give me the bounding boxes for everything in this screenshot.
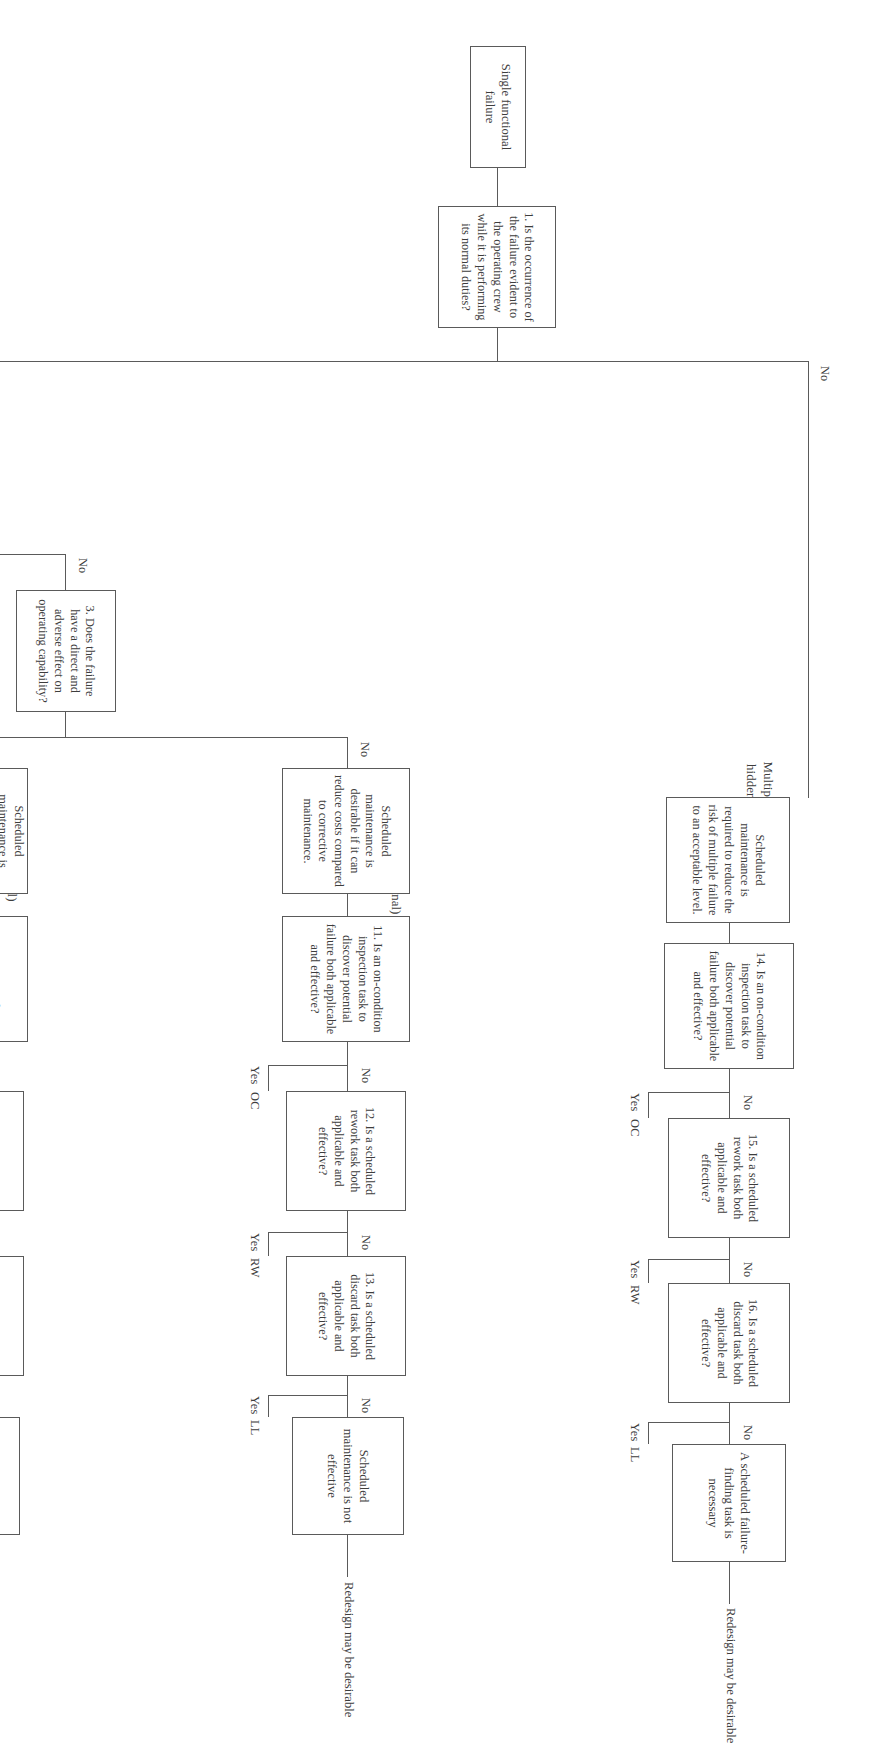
edge-q15-split [648,1259,730,1260]
edge-q11-no [347,1065,348,1091]
outcome-redesign-desirable-non-operational: Redesign may be desirable [341,1582,357,1747]
node-q11: 11. Is an on-condition inspection task t… [282,916,410,1042]
node-statement-non-operational: Scheduled maintenance is desirable if it… [282,768,410,894]
edge-q16-yes [648,1422,649,1444]
node-q12: 12. Is a scheduled rework task both appl… [286,1091,406,1211]
edge-root-q1 [497,168,498,206]
node-q3-label: 3. Does the failure have a direct and ad… [35,596,98,706]
edge-q14-split [648,1092,730,1093]
edge-q12-out [347,1211,348,1233]
edge-label-q12-no: No [358,1235,373,1250]
edge-q16-out [729,1403,730,1423]
node-q15: 15. Is a scheduled rework task both appl… [668,1118,790,1238]
edge-q13-no [347,1395,348,1417]
edge-label-q15-yes: Yes [627,1260,642,1278]
edge-label-q3-no: No [357,742,372,757]
edge-q1-no [808,361,809,798]
edge-q3-no [347,737,348,769]
edge-label-q13-no: No [358,1398,373,1413]
node-statement-operational: Scheduled maintenance is desirable if it… [0,768,28,894]
edge-label-q11-no: No [358,1068,373,1083]
edge-label-q11-yes: Yes [247,1066,262,1084]
node-q10: 10. Is a scheduled discard task both app… [0,1256,24,1376]
node-outcome-failure-finding-label: A scheduled failure-finding task is nece… [705,1450,753,1556]
node-root-label: Single functional failure [482,52,514,162]
edge-q3-out [65,712,66,738]
edge-q1-out [497,328,498,362]
task-code-ll-nonoperational: LL [247,1420,262,1436]
node-q8-label: 8. Is an on-condition inspection task to… [0,922,2,1036]
edge-q14-no [729,1092,730,1118]
edge-nonop-stmt-q11 [347,894,348,916]
edge-hidden-redesign [729,1562,730,1604]
task-code-oc-hidden: OC [627,1119,642,1137]
node-outcome-sched-not-effective-non-operational-label: Scheduled maintenance is not effective [324,1423,372,1529]
node-statement-non-operational-label: Scheduled maintenance is desirable if it… [299,774,393,888]
edge-label-q16-yes: Yes [627,1423,642,1441]
node-outcome-sched-not-effective-operational: Scheduled maintenance is not effective [0,1417,20,1535]
node-root: Single functional failure [470,46,526,168]
edge-q15-no [729,1259,730,1283]
node-q16-label: 16. Is a scheduled discard task both app… [698,1289,761,1397]
edge-q2-split [0,554,66,555]
node-q13: 13. Is a scheduled discard task both app… [286,1256,406,1376]
edge-q12-split [268,1232,348,1233]
edge-q12-no [347,1232,348,1256]
edge-q16-no [729,1422,730,1444]
task-code-rw-hidden: RW [627,1285,642,1305]
node-q14-label: 14. Is an on-condition inspection task t… [690,949,769,1063]
node-statement-hidden: Scheduled maintenance is required to red… [666,797,790,923]
edge-q12-yes [268,1232,269,1256]
edge-q11-out [347,1042,348,1066]
edge-q11-split [268,1065,348,1066]
node-statement-operational-label: Scheduled maintenance is desirable if it… [0,774,26,888]
node-q15-label: 15. Is a scheduled rework task both appl… [698,1124,761,1232]
node-q14: 14. Is an on-condition inspection task t… [664,943,794,1069]
edge-q15-yes [648,1259,649,1283]
edge-q15-out [729,1238,730,1260]
task-code-rw-nonoperational: RW [247,1258,262,1278]
node-outcome-sched-not-effective-non-operational: Scheduled maintenance is not effective [292,1417,404,1535]
edge-q13-split [268,1395,348,1396]
node-q1-label: 1. Is the occurrence of the failure evid… [458,212,537,322]
edge-q14-yes [648,1092,649,1118]
edge-label-q14-no: No [740,1095,755,1110]
edge-label-q12-yes: Yes [247,1233,262,1251]
edge-q1-split [0,361,809,362]
edge-label-q2-no: No [75,558,90,573]
edge-hidden-stmt-q14 [729,923,730,943]
edge-q11-yes [268,1065,269,1091]
edge-q14-out [729,1069,730,1093]
edge-label-q16-no: No [740,1425,755,1440]
edge-q13-out [347,1376,348,1396]
task-code-oc-nonoperational: OC [247,1092,262,1110]
node-q16: 16. Is a scheduled discard task both app… [668,1283,790,1403]
node-q11-label: 11. Is an on-condition inspection task t… [307,922,386,1036]
edge-q3-split [0,737,348,738]
node-q12-label: 12. Is a scheduled rework task both appl… [315,1097,378,1205]
node-q9: 9. Is a scheduled rework task both appli… [0,1091,24,1211]
node-statement-hidden-label: Scheduled maintenance is required to red… [689,803,768,917]
edge-q16-split [648,1422,730,1423]
node-outcome-failure-finding: A scheduled failure-finding task is nece… [672,1444,786,1562]
edge-q13-yes [268,1395,269,1417]
edge-label-q13-yes: Yes [247,1396,262,1414]
edge-label-q1-no: No [817,366,832,381]
node-q8: 8. Is an on-condition inspection task to… [0,916,28,1042]
edge-label-q15-no: No [740,1262,755,1277]
edge-nonop-redesign [347,1535,348,1577]
node-q13-label: 13. Is a scheduled discard task both app… [315,1262,378,1370]
node-q3: 3. Does the failure have a direct and ad… [16,590,116,712]
task-code-ll-hidden: LL [627,1447,642,1463]
edge-q2-no [65,554,66,590]
edge-label-q14-yes: Yes [627,1093,642,1111]
node-q1: 1. Is the occurrence of the failure evid… [438,206,556,328]
outcome-redesign-desirable-hidden: Redesign may be desirable [723,1608,739,1747]
